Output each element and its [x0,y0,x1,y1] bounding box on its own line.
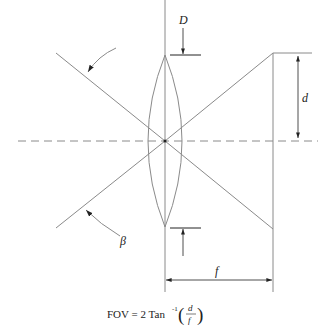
formula-denominator: f [188,315,192,325]
d-label: d [302,91,309,105]
fov-formula: FOV = 2 Tan -1 ( d f ) [107,303,203,326]
angle-arc-lower [86,210,120,236]
ray-lower-left [56,141,165,228]
beta-label: β [119,234,126,248]
ray-upper-left [56,53,165,141]
angle-arc-upper [88,48,116,72]
lens-diameter-label: D [178,13,188,27]
ray-upper-right [165,53,273,141]
fov-diagram: d D f β FOV = 2 Tan -1 ( d f ) [0,0,331,328]
formula-close-paren: ) [197,304,203,326]
formula-lhs: FOV = 2 Tan [107,308,165,320]
lens-center-point [164,140,167,143]
f-label: f [215,264,220,278]
formula-open-paren: ( [178,304,184,326]
formula-numerator: d [188,303,193,313]
ray-lower-right [165,141,273,229]
